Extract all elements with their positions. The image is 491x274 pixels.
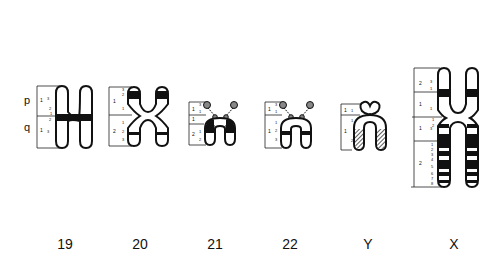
svg-text:2: 2 bbox=[275, 128, 278, 133]
svg-text:1: 1 bbox=[430, 86, 433, 91]
svg-text:1: 1 bbox=[50, 111, 53, 116]
svg-text:1: 1 bbox=[199, 109, 202, 114]
svg-text:1: 1 bbox=[192, 106, 195, 112]
svg-text:3: 3 bbox=[47, 129, 50, 134]
svg-text:2: 2 bbox=[49, 117, 52, 122]
svg-text:5: 5 bbox=[431, 164, 434, 169]
svg-text:2: 2 bbox=[192, 131, 195, 137]
svg-text:4: 4 bbox=[431, 157, 434, 162]
chromosome-21: 1 3 1 1 2 1 2 bbox=[189, 102, 238, 146]
svg-text:1: 1 bbox=[344, 128, 347, 134]
chromosome-label-Y: Y bbox=[363, 236, 372, 252]
chromosome-label-20: 20 bbox=[132, 236, 148, 252]
svg-text:3: 3 bbox=[275, 102, 278, 107]
chromosome-Y: 1 1 1 1 2 bbox=[341, 102, 386, 150]
svg-text:3: 3 bbox=[275, 137, 278, 142]
chromosome-label-22: 22 bbox=[282, 236, 298, 252]
svg-text:1: 1 bbox=[275, 120, 278, 125]
svg-text:8: 8 bbox=[431, 181, 434, 186]
svg-text:2: 2 bbox=[199, 137, 202, 142]
svg-text:2: 2 bbox=[432, 123, 435, 128]
svg-text:1: 1 bbox=[275, 109, 278, 114]
svg-text:1: 1 bbox=[351, 108, 354, 113]
chromosome-20: 1 3 2 1 2 1 2 3 bbox=[109, 87, 168, 146]
svg-text:1: 1 bbox=[419, 101, 422, 107]
p-arm-label: p bbox=[24, 94, 30, 106]
svg-text:2: 2 bbox=[419, 80, 422, 86]
svg-text:3: 3 bbox=[430, 79, 433, 84]
chromosome-label-19: 19 bbox=[57, 236, 73, 252]
svg-text:1: 1 bbox=[199, 129, 202, 134]
svg-text:1: 1 bbox=[351, 118, 354, 123]
svg-text:1: 1 bbox=[419, 125, 422, 131]
svg-text:1: 1 bbox=[113, 98, 116, 104]
region-label: 1 bbox=[40, 97, 43, 103]
svg-text:3: 3 bbox=[47, 96, 50, 101]
svg-text:1: 1 bbox=[432, 117, 435, 122]
svg-text:1: 1 bbox=[122, 120, 125, 125]
svg-text:2: 2 bbox=[113, 128, 116, 134]
chromosome-22: 1 3 1 1 1 2 3 bbox=[265, 102, 314, 149]
chromosome-diagram: 1 3 2 1 2 1 3 1 3 2 1 2 1 2 3 bbox=[0, 0, 491, 274]
svg-text:2: 2 bbox=[122, 129, 125, 134]
chromosome-19: 1 3 2 1 2 1 3 bbox=[37, 86, 92, 148]
svg-text:1: 1 bbox=[40, 127, 43, 133]
svg-text:1: 1 bbox=[122, 106, 125, 111]
svg-text:1: 1 bbox=[344, 107, 347, 113]
svg-text:1: 1 bbox=[268, 106, 271, 112]
chromosome-label-21: 21 bbox=[207, 236, 223, 252]
q-arm-label: q bbox=[24, 121, 30, 133]
svg-text:2: 2 bbox=[419, 160, 422, 166]
svg-text:2: 2 bbox=[122, 92, 125, 97]
svg-text:1: 1 bbox=[192, 116, 195, 122]
svg-text:3: 3 bbox=[122, 137, 125, 142]
chromosome-X: 2 3 1 1 1 1 2 1 3 2 1 2 3 4 5 6 7 8 bbox=[411, 68, 478, 187]
svg-text:1: 1 bbox=[430, 106, 433, 111]
chromosome-label-X: X bbox=[449, 236, 458, 252]
svg-text:1: 1 bbox=[268, 128, 271, 134]
svg-text:3: 3 bbox=[199, 102, 202, 107]
